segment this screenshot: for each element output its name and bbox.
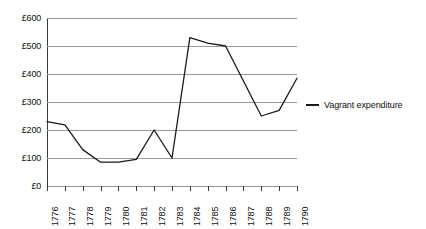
- x-tick-label-1782: 1782: [158, 207, 167, 226]
- x-tick-mark-1782: [154, 186, 155, 191]
- x-tick-label-1784: 1784: [193, 207, 202, 226]
- x-tick-mark-1789: [279, 186, 280, 191]
- y-tick-label-0: £0: [31, 182, 41, 191]
- series-vagrant-expenditure: [47, 18, 297, 186]
- x-tick-label-1779: 1779: [104, 207, 113, 226]
- x-tick-label-1789: 1789: [283, 207, 292, 226]
- chart-legend: Vagrant expenditure: [306, 100, 403, 110]
- x-tick-mark-1786: [226, 186, 227, 191]
- x-tick-mark-1790: [297, 186, 298, 191]
- x-tick-label-1787: 1787: [247, 207, 256, 226]
- x-tick-mark-1777: [65, 186, 66, 191]
- x-tick-mark-1780: [118, 186, 119, 191]
- x-tick-mark-1778: [83, 186, 84, 191]
- x-tick-label-1783: 1783: [176, 207, 185, 226]
- x-tick-label-1790: 1790: [301, 207, 310, 226]
- x-tick-label-1777: 1777: [68, 207, 77, 226]
- legend-line-swatch-icon: [306, 104, 319, 106]
- y-tick-label-400: £400: [22, 70, 41, 79]
- x-tick-label-1780: 1780: [122, 207, 131, 226]
- x-tick-label-1786: 1786: [229, 207, 238, 226]
- x-tick-mark-1781: [136, 186, 137, 191]
- x-tick-mark-1787: [243, 186, 244, 191]
- x-tick-label-1781: 1781: [140, 207, 149, 226]
- y-tick-label-300: £300: [22, 98, 41, 107]
- x-axis-tick-labels: 1776177717781779178017811782178317841785…: [47, 192, 297, 229]
- x-tick-label-1776: 1776: [51, 207, 60, 226]
- x-tick-mark-1776: [47, 186, 48, 191]
- y-tick-label-500: £500: [22, 42, 41, 51]
- x-tick-label-1788: 1788: [265, 207, 274, 226]
- y-tick-label-200: £200: [22, 126, 41, 135]
- plot-area: [47, 18, 297, 186]
- x-tick-label-1778: 1778: [86, 207, 95, 226]
- x-tick-mark-1784: [190, 186, 191, 191]
- x-tick-mark-1779: [101, 186, 102, 191]
- y-tick-label-600: £600: [22, 14, 41, 23]
- y-tick-label-100: £100: [22, 154, 41, 163]
- x-tick-mark-1785: [208, 186, 209, 191]
- series-polyline: [47, 38, 297, 163]
- x-tick-label-1785: 1785: [211, 207, 220, 226]
- legend-label-vagrant-expenditure: Vagrant expenditure: [324, 100, 403, 110]
- x-tick-mark-1788: [261, 186, 262, 191]
- x-tick-mark-1783: [172, 186, 173, 191]
- y-axis-tick-labels: £0£100£200£300£400£500£600: [0, 0, 44, 229]
- vagrant-expenditure-line-chart: £0£100£200£300£400£500£600 1776177717781…: [0, 0, 426, 229]
